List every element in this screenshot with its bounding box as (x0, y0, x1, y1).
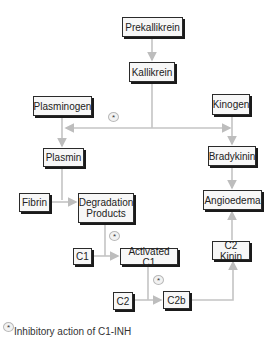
legend-text: Inhibitory action of C1-INH (14, 326, 131, 337)
node-c2b: C2b (163, 291, 190, 309)
node-activated-c1: Activated C1 (120, 248, 178, 265)
node-c1: C1 (73, 248, 92, 265)
legend-marker-icon: * (3, 322, 14, 332)
inhibition-marker-icon: * (109, 231, 120, 241)
node-degradation-products: Degradation Products (78, 193, 134, 223)
inhibition-marker-icon: * (153, 275, 164, 285)
node-plasmin: Plasmin (43, 148, 84, 167)
node-bradykinin: Bradykinin (208, 146, 256, 166)
node-kinogen: Kinogen (212, 94, 250, 115)
node-fibrin: Fibrin (19, 193, 50, 212)
node-angioedema: Angioedema (203, 190, 262, 210)
node-prekallikrein: Prekallikrein (122, 17, 183, 37)
inhibition-marker-icon: * (108, 112, 119, 122)
node-plasminogen: Plasminogen (33, 96, 92, 116)
node-kallikrein: Kallikrein (129, 62, 175, 82)
node-c2-kinin: C2 Kinin (212, 241, 250, 260)
node-c2: C2 (113, 292, 133, 310)
connector-lines (0, 0, 277, 339)
